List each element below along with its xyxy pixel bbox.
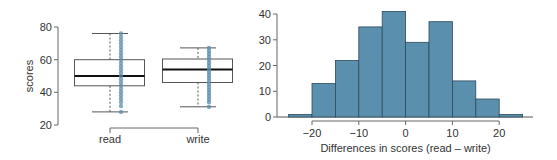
histogram-xtick: −10 [349, 127, 368, 139]
bar [382, 11, 405, 117]
histogram-x-label: Differences in scores (read – write) [320, 142, 490, 154]
histogram-xtick: 20 [493, 127, 505, 139]
boxplot-xtick-read: read [99, 133, 121, 145]
bar [335, 60, 358, 117]
box-write [163, 46, 233, 109]
bar [429, 22, 452, 117]
figure: 80 60 40 20 scores read write [0, 0, 557, 160]
box-read [75, 31, 145, 114]
histogram-ytick: 10 [259, 85, 271, 97]
boxplot-chart: 80 60 40 20 scores read write [23, 21, 233, 145]
boxplot-y-label: scores [23, 59, 35, 92]
histogram-xtick: 0 [403, 127, 409, 139]
histogram-chart: 40 30 20 10 0 −20 −10 0 10 20 [259, 8, 533, 154]
bar [406, 42, 429, 117]
bar [289, 114, 312, 117]
points-write [207, 46, 211, 109]
points-read [119, 31, 123, 114]
histogram-xtick: −20 [303, 127, 322, 139]
bar [499, 114, 522, 117]
boxplot-ytick: 60 [40, 54, 52, 66]
boxplot-ytick: 80 [40, 21, 52, 33]
bar [452, 81, 475, 117]
bar [312, 84, 335, 118]
histogram-ytick: 0 [265, 111, 271, 123]
boxplot-ytick: 40 [40, 86, 52, 98]
histogram-xtick: 10 [446, 127, 458, 139]
bar [359, 27, 382, 117]
histogram-bars [289, 11, 523, 117]
histogram-ytick: 30 [259, 34, 271, 46]
histogram-ytick: 40 [259, 8, 271, 20]
histogram-ytick: 20 [259, 60, 271, 72]
bar [476, 99, 499, 117]
boxplot-ytick: 20 [40, 119, 52, 131]
boxplot-xtick-write: write [185, 133, 209, 145]
